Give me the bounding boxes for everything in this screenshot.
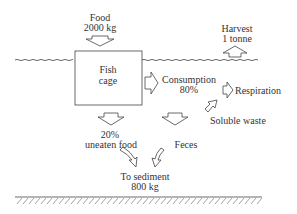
consumption-percent: 80% (158, 85, 220, 95)
cage-label-line2: cage (88, 76, 128, 86)
uneaten-food-arrow-icon (98, 113, 124, 125)
respiration-label: Respiration (235, 86, 281, 96)
water-surface-line (15, 59, 258, 60)
consumption-arrow-icon (145, 72, 158, 94)
feces-arrow-icon (162, 113, 188, 125)
feces-label: Feces (166, 140, 206, 150)
harvest-arrow-icon (223, 46, 247, 57)
respiration-arrow-icon (223, 82, 233, 98)
uneaten-label: uneaten food (80, 140, 142, 150)
food-arrow-icon (86, 36, 114, 46)
fish-cage-mass-balance-diagram: Food 2000 kg Harvest 1 tonne Fish cage C… (0, 0, 297, 214)
uneaten-to-sediment-arrow-icon (120, 147, 137, 167)
sediment-hatching (17, 198, 262, 204)
harvest-amount: 1 tonne (212, 34, 262, 44)
sediment-amount: 800 kg (120, 182, 170, 192)
soluble-waste-label: Soluble waste (210, 116, 266, 126)
cage-label-line1: Fish (88, 65, 128, 75)
food-amount: 2000 kg (75, 23, 125, 33)
feces-to-sediment-arrow-icon (152, 148, 164, 167)
soluble-waste-arrow-icon (205, 100, 217, 112)
